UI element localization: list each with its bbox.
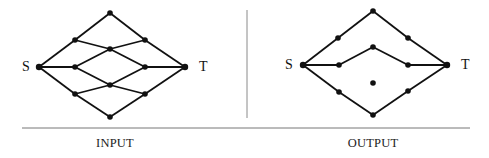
graph-node-E [336,62,342,68]
input-sink-label: T [199,60,208,74]
graph-edge [373,11,408,38]
graph-node-J [107,114,113,120]
graph-edge [339,47,373,65]
graph-edge [110,67,145,85]
output-graph [300,8,450,118]
graph-node-C [405,35,411,41]
graph-node-T [444,62,450,68]
graph-edge [303,65,339,92]
graph-node-D [370,44,376,50]
graph-edge [110,49,145,67]
graph-node-F [142,64,148,70]
graph-node-G [370,80,376,86]
graph-edge [408,65,447,91]
graph-node-E [72,64,78,70]
graph-edge [338,11,373,38]
graph-edge [110,94,145,117]
graph-edge [39,40,75,67]
graph-node-T [182,64,188,70]
graph-node-A [370,8,376,14]
graph-edge [110,13,145,40]
input-source-label: S [22,60,30,74]
graph-edge [408,38,447,65]
graph-edge [145,67,185,94]
graph-node-A [107,10,113,16]
input-caption: INPUT [96,137,134,150]
input-graph [36,10,188,120]
output-source-label: S [285,58,293,72]
graph-edge [373,91,408,115]
output-caption: OUTPUT [348,137,399,150]
graph-node-I [405,88,411,94]
graph-node-S [300,62,306,68]
graph-edge [75,85,110,94]
graph-edge [75,40,110,49]
graph-node-I [142,91,148,97]
graph-edge [373,47,408,65]
graph-edge [75,49,110,67]
graph-edge [75,94,110,117]
graph-edge [145,40,185,67]
graph-edge [110,85,145,94]
graph-edge [110,40,145,49]
output-sink-label: T [461,58,470,72]
diagram-canvas [0,0,489,158]
graph-node-C [142,37,148,43]
graph-edge [75,67,110,85]
graph-edge [39,67,75,94]
graph-edge [339,92,373,115]
graph-node-G [107,82,113,88]
graph-edge [303,38,338,65]
graph-node-H [72,91,78,97]
graph-node-B [72,37,78,43]
graph-node-S [36,64,42,70]
graph-node-D [107,46,113,52]
graph-node-H [336,89,342,95]
graph-node-J [370,112,376,118]
graph-node-F [405,62,411,68]
graph-node-B [335,35,341,41]
graph-edge [75,13,110,40]
